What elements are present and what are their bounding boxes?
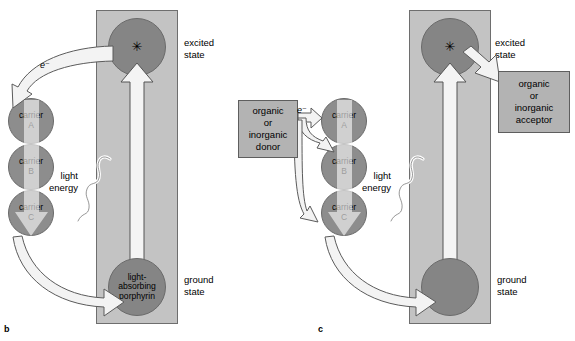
figure-canvas: e⁻ ✳ light- absorbing porphyrin carrier … — [0, 0, 575, 341]
panel-c-donor-arrow-layer — [0, 0, 575, 341]
acceptor-box-c: organic or inorganic acceptor — [498, 71, 570, 133]
donor-box-c: organic or inorganic donor — [238, 100, 298, 158]
electron-label-c: e⁻ — [297, 105, 307, 115]
electron-label-b: e⁻ — [40, 60, 50, 70]
